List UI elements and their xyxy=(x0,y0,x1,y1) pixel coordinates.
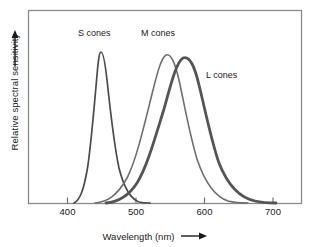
x-tick-label-500: 500 xyxy=(116,206,156,217)
x-axis-label: Wavelength (nm) xyxy=(103,231,175,242)
curve-label-s-cones: S cones xyxy=(78,28,111,38)
curve-label-m-cones: M cones xyxy=(141,28,175,38)
x-tick-label-700: 700 xyxy=(253,206,293,217)
x-axis-group: Wavelength (nm) xyxy=(60,227,250,245)
curve-label-l-cones: L cones xyxy=(206,70,237,80)
curve-l-cones xyxy=(106,58,276,203)
spectral-sensitivity-figure: Relative spectral sensitivity 400 500 60… xyxy=(0,0,311,247)
right-arrow-icon xyxy=(181,231,207,241)
x-tick-label-600: 600 xyxy=(185,206,225,217)
x-tick-label-400: 400 xyxy=(48,206,88,217)
